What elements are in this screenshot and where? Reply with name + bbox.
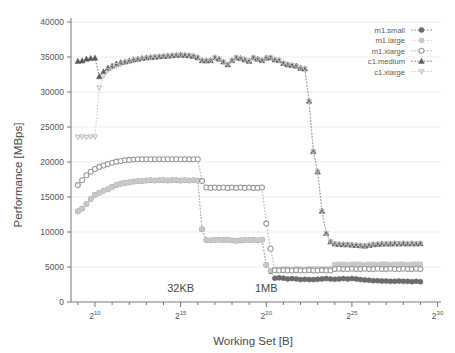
data-point bbox=[200, 227, 205, 232]
data-point bbox=[136, 179, 141, 184]
legend-label-m1-large[interactable]: m1.large bbox=[375, 36, 405, 45]
data-point bbox=[341, 262, 346, 267]
data-point bbox=[161, 178, 166, 183]
data-point bbox=[384, 262, 389, 267]
data-point bbox=[251, 237, 256, 242]
data-point bbox=[183, 178, 188, 183]
data-point bbox=[106, 187, 111, 192]
data-point bbox=[268, 246, 273, 251]
data-point bbox=[114, 183, 119, 188]
data-point bbox=[80, 178, 85, 183]
data-point bbox=[204, 238, 209, 243]
data-point bbox=[170, 178, 175, 183]
data-point bbox=[84, 202, 89, 207]
data-point bbox=[88, 197, 93, 202]
data-point bbox=[392, 262, 397, 267]
y-tick-label: 20000 bbox=[40, 157, 64, 167]
data-point bbox=[243, 238, 248, 243]
y-tick-label: 40000 bbox=[40, 17, 64, 27]
data-point bbox=[123, 181, 128, 186]
data-point bbox=[260, 237, 265, 242]
data-point bbox=[195, 157, 200, 162]
data-point bbox=[178, 178, 183, 183]
data-point bbox=[75, 183, 80, 188]
data-point bbox=[118, 181, 123, 186]
data-point bbox=[238, 238, 243, 243]
data-point bbox=[225, 237, 230, 242]
performance-vs-working-set-chart: 0500010000150002000025000300003500040000… bbox=[0, 0, 455, 353]
legend-label-c1-xlarge[interactable]: c1.xlarge bbox=[374, 68, 405, 77]
y-tick-label: 15000 bbox=[40, 192, 64, 202]
data-point bbox=[110, 185, 115, 190]
data-point bbox=[84, 173, 89, 178]
data-point bbox=[354, 262, 359, 267]
data-point bbox=[418, 262, 423, 267]
data-point bbox=[187, 178, 192, 183]
data-point bbox=[127, 180, 132, 185]
data-point bbox=[76, 209, 81, 214]
legend-label-m1-xlarge[interactable]: m1.xlarge bbox=[372, 47, 405, 56]
data-point bbox=[101, 188, 106, 193]
data-point bbox=[264, 221, 269, 226]
chart-figure: 0500010000150002000025000300003500040000… bbox=[0, 0, 455, 353]
data-point bbox=[208, 238, 213, 243]
data-point bbox=[148, 178, 153, 183]
data-point bbox=[397, 262, 402, 267]
data-point bbox=[255, 238, 260, 243]
x-axis-title: Working Set [B] bbox=[213, 335, 293, 347]
y-tick-label: 25000 bbox=[40, 122, 64, 132]
data-point bbox=[259, 185, 264, 190]
y-tick-label: 5000 bbox=[45, 262, 64, 272]
data-point bbox=[371, 262, 376, 267]
plot-annotation: 32KB bbox=[167, 282, 194, 294]
data-point bbox=[358, 262, 363, 267]
data-point bbox=[221, 238, 226, 243]
legend-marker bbox=[419, 28, 424, 33]
data-point bbox=[217, 237, 222, 242]
data-point bbox=[200, 178, 205, 183]
legend-marker bbox=[419, 38, 424, 43]
y-tick-label: 10000 bbox=[40, 227, 64, 237]
data-point bbox=[264, 263, 269, 268]
data-point bbox=[191, 178, 196, 183]
legend-label-c1-medium[interactable]: c1.medium bbox=[368, 57, 405, 66]
data-point bbox=[93, 193, 98, 198]
y-tick-label: 35000 bbox=[40, 52, 64, 62]
data-point bbox=[234, 238, 239, 243]
data-point bbox=[157, 178, 162, 183]
legend-label-m1-small[interactable]: m1.small bbox=[375, 26, 406, 35]
data-point bbox=[165, 178, 170, 183]
data-point bbox=[140, 179, 145, 184]
data-point bbox=[418, 267, 423, 272]
data-point bbox=[367, 262, 372, 267]
data-point bbox=[230, 238, 235, 243]
y-tick-label: 0 bbox=[59, 297, 64, 307]
data-point bbox=[144, 178, 149, 183]
legend-marker bbox=[419, 48, 424, 53]
data-point bbox=[80, 206, 85, 211]
data-point bbox=[153, 178, 158, 183]
data-point bbox=[213, 238, 218, 243]
data-point bbox=[418, 279, 423, 284]
data-point bbox=[410, 262, 415, 267]
data-point bbox=[131, 179, 136, 184]
y-tick-label: 30000 bbox=[40, 87, 64, 97]
plot-annotation: 1MB bbox=[255, 282, 278, 294]
y-axis-title: Performance [MBps] bbox=[12, 123, 24, 228]
data-point bbox=[247, 238, 252, 243]
data-point bbox=[174, 178, 179, 183]
data-point bbox=[97, 191, 102, 196]
data-point bbox=[380, 262, 385, 267]
